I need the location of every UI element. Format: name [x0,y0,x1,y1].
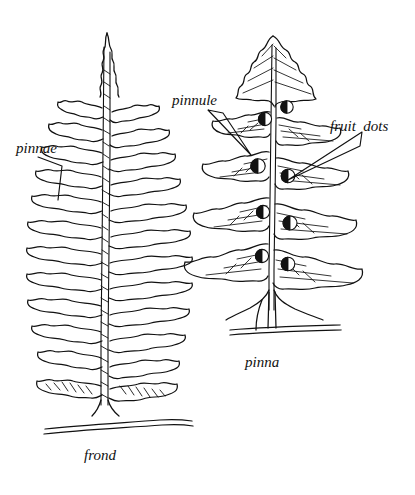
frond-pinnae-right [109,105,192,402]
fruit-dot [255,249,268,262]
fruit-dots-leader-line [288,132,362,180]
pinna-figure [184,36,362,335]
label-fruit-dots: fruit dots [330,118,388,135]
caption-frond: frond [84,447,116,464]
frond-figure [27,33,193,434]
pinnule-leader-line [208,110,251,155]
fruit-dot [258,112,271,125]
fruit-dot [281,257,295,271]
pinna-midrib [269,45,276,310]
botanical-illustration [0,0,415,495]
label-pinnae: pinnae [16,140,57,157]
frond-base-ground-line [44,400,193,434]
pinna-base-ground-line [226,290,341,335]
fruit-dot [251,159,265,173]
fruit-dot [281,101,293,113]
fruit-dot [281,169,295,183]
caption-pinna: pinna [245,354,279,371]
fruit-dot [256,205,269,218]
illustration-page: pinnae pinnule fruit dots frond pinna [0,0,415,495]
label-pinnule: pinnule [172,92,217,109]
frond-rachis [101,47,110,405]
pinnae-leader-line [38,157,62,200]
fruit-dot [283,216,297,230]
